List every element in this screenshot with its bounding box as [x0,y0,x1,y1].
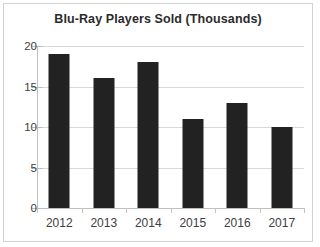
y-tick-label-15: 15 [7,81,37,93]
bar-slot [260,46,305,208]
bar-slot [37,46,82,208]
y-tick-label-5: 5 [7,162,37,174]
x-tick-label-2016: 2016 [224,216,251,230]
bar-slot [126,46,171,208]
x-tick-label-2014: 2014 [135,216,162,230]
x-tick-mark-2017 [304,208,305,213]
x-tick-mark-2015 [215,208,216,213]
bar-2013 [93,78,114,208]
bar-2017 [271,127,292,208]
x-tick-mark-origin [37,208,38,213]
plot-area [37,46,304,208]
bar-slot [82,46,127,208]
bar-2014 [138,62,159,208]
bar-slot [171,46,216,208]
chart-frame: Blu-Ray Players Sold (Thousands) 0510152… [3,3,313,242]
bar-slot [215,46,260,208]
x-tick-mark-2016 [260,208,261,213]
bar-2012 [49,54,70,208]
chart-title: Blu-Ray Players Sold (Thousands) [4,12,312,26]
y-tick-label-10: 10 [7,121,37,133]
x-tick-label-2013: 2013 [90,216,117,230]
bar-2016 [227,103,248,208]
x-tick-label-2017: 2017 [268,216,295,230]
x-tick-mark-2013 [126,208,127,213]
bar-2015 [182,119,203,208]
x-tick-label-2012: 2012 [46,216,73,230]
y-tick-label-20: 20 [7,40,37,52]
y-tick-label-0: 0 [7,202,37,214]
x-tick-label-2015: 2015 [179,216,206,230]
x-tick-mark-2014 [171,208,172,213]
x-tick-mark-2012 [82,208,83,213]
